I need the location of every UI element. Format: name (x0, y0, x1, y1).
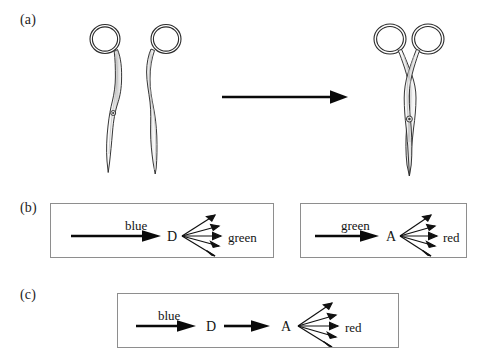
donor-acceptor-box: blue D A red (117, 293, 399, 348)
acceptor-box: green A red (300, 203, 467, 258)
panel-label-c: (c) (20, 287, 36, 303)
acceptor-output-label: red (443, 231, 460, 244)
donor-acceptor-output-label: red (345, 321, 362, 334)
transfer-arrow-icon (224, 320, 270, 332)
donor-acceptor-node-label-second: A (281, 320, 291, 334)
donor-acceptor-node-label-first: D (206, 320, 216, 334)
scissor-half-right-icon (137, 22, 183, 182)
emission-fan-icon (400, 215, 437, 256)
scissors-assembled-icon (366, 16, 452, 184)
donor-output-label: green (228, 231, 257, 244)
donor-input-label: blue (125, 219, 147, 232)
donor-node-label: D (167, 230, 177, 244)
donor-acceptor-input-label: blue (158, 309, 180, 322)
input-arrow-icon (71, 230, 161, 242)
panel-a-stage (0, 0, 481, 190)
panel-label-b: (b) (20, 200, 37, 216)
figure-root: (a) (0, 0, 481, 361)
emission-fan-icon (298, 303, 338, 347)
emission-fan-icon (182, 215, 221, 256)
donor-box: blue D green (50, 203, 274, 258)
acceptor-input-label: green (341, 219, 370, 232)
transform-arrow-icon (222, 88, 348, 110)
scissor-half-left-icon (88, 22, 134, 182)
acceptor-node-label: A (386, 230, 396, 244)
